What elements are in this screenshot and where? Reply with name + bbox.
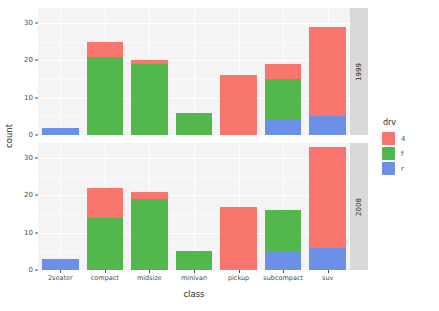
legend-key-swatch	[382, 147, 395, 160]
bar-segment-r[interactable]	[265, 120, 302, 135]
bar-segment-f[interactable]	[265, 210, 302, 251]
bar-segment-4[interactable]	[220, 75, 257, 135]
bar-segment-4[interactable]	[220, 207, 257, 271]
x-tick-label-subcompact: subcompact	[263, 274, 303, 282]
bar-segment-f[interactable]	[131, 199, 168, 270]
bar-series-container	[38, 143, 350, 270]
y-tick-label: 30	[24, 19, 33, 27]
plot-panel	[38, 143, 350, 270]
x-tick-mark	[60, 270, 61, 273]
legend-label: f	[401, 150, 403, 158]
y-tick-label: 20	[24, 56, 33, 64]
x-tick-mark	[283, 270, 284, 273]
bar-compact[interactable]	[87, 188, 124, 270]
x-tick-mark	[149, 270, 150, 273]
y-axis-ticks: 0102030	[16, 143, 38, 270]
bar-segment-r[interactable]	[309, 116, 346, 135]
x-tick-label-2seater: 2seater	[48, 274, 73, 282]
bar-suv[interactable]	[309, 147, 346, 270]
bar-segment-4[interactable]	[87, 42, 124, 57]
x-tick-mark	[239, 270, 240, 273]
x-axis: 2seatercompactmidsizeminivanpickupsubcom…	[38, 270, 350, 288]
facet-strip-label: 2008	[350, 143, 368, 270]
bar-segment-r[interactable]	[309, 248, 346, 270]
legend-label: r	[401, 165, 404, 173]
bar-minivan[interactable]	[176, 113, 213, 135]
y-tick-label: 0	[29, 266, 33, 274]
x-tick-label-pickup: pickup	[228, 274, 249, 282]
y-tick-label: 20	[24, 191, 33, 199]
y-tick-label: 0	[29, 131, 33, 139]
bar-segment-f[interactable]	[87, 218, 124, 270]
bar-pickup[interactable]	[220, 75, 257, 135]
facet-strip-label: 1999	[350, 8, 368, 135]
x-axis-title: class	[38, 289, 350, 299]
bar-midsize[interactable]	[131, 192, 168, 270]
y-tick-label: 10	[24, 229, 33, 237]
bar-segment-4[interactable]	[131, 192, 168, 199]
bar-segment-f[interactable]	[176, 251, 213, 270]
bar-series-container	[38, 8, 350, 135]
bar-segment-4[interactable]	[87, 188, 124, 218]
bar-segment-r[interactable]	[42, 259, 79, 270]
bar-segment-f[interactable]	[131, 64, 168, 135]
bar-segment-4[interactable]	[131, 60, 168, 64]
y-tick-label: 30	[24, 154, 33, 162]
y-axis-title-text: count	[4, 124, 14, 148]
bar-segment-r[interactable]	[265, 251, 302, 270]
legend-items: 4fr	[382, 131, 436, 176]
facet-panel-1999: 01020301999	[16, 8, 368, 135]
legend: drv 4fr	[382, 118, 436, 176]
bar-segment-4[interactable]	[309, 147, 346, 248]
x-tick-label-midsize: midsize	[137, 274, 162, 282]
bar-pickup[interactable]	[220, 207, 257, 271]
bar-segment-4[interactable]	[265, 64, 302, 79]
x-tick-mark	[105, 270, 106, 273]
x-tick-mark	[194, 270, 195, 273]
y-axis-ticks: 0102030	[16, 8, 38, 135]
bar-segment-f[interactable]	[87, 57, 124, 135]
facet-panel-2008: 01020302008	[16, 143, 368, 270]
facet-panels: 0102030199901020302008	[16, 8, 368, 270]
x-tick-label-suv: suv	[322, 274, 333, 282]
y-axis-title: count	[2, 0, 16, 271]
bar-segment-f[interactable]	[265, 79, 302, 120]
bar-segment-r[interactable]	[42, 128, 79, 135]
bar-compact[interactable]	[87, 42, 124, 135]
legend-title: drv	[382, 118, 436, 127]
bar-minivan[interactable]	[176, 251, 213, 270]
legend-label: 4	[401, 135, 405, 143]
gridline-horizontal	[38, 135, 350, 136]
legend-key-swatch	[382, 132, 395, 145]
x-tick-label-compact: compact	[91, 274, 119, 282]
legend-item-f[interactable]: f	[382, 146, 436, 161]
bar-2seater[interactable]	[42, 259, 79, 270]
y-tick-label: 10	[24, 94, 33, 102]
facet-strip-text: 1999	[355, 63, 363, 81]
legend-item-r[interactable]: r	[382, 161, 436, 176]
facet-strip-text: 2008	[355, 198, 363, 216]
legend-item-4[interactable]: 4	[382, 131, 436, 146]
bar-subcompact[interactable]	[265, 64, 302, 135]
legend-key-swatch	[382, 162, 395, 175]
bar-subcompact[interactable]	[265, 210, 302, 270]
bar-segment-f[interactable]	[176, 113, 213, 135]
bar-segment-4[interactable]	[309, 27, 346, 117]
bar-2seater[interactable]	[42, 128, 79, 135]
plot-panel	[38, 8, 350, 135]
bar-suv[interactable]	[309, 27, 346, 135]
chart-root: count 0102030199901020302008 2seatercomp…	[0, 0, 439, 311]
x-tick-mark	[328, 270, 329, 273]
bar-midsize[interactable]	[131, 60, 168, 135]
x-tick-label-minivan: minivan	[181, 274, 207, 282]
